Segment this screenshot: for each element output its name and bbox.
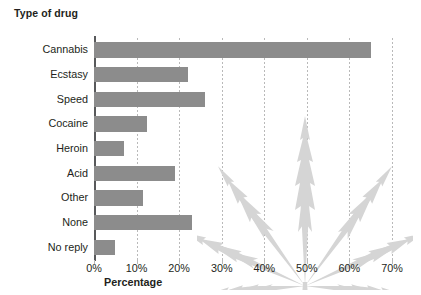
x-tick-label-20: 20% [168,262,190,274]
bar-band [94,112,392,137]
category-label-ecstasy: Ecstasy [0,68,88,80]
bar-band [94,38,392,63]
bar-band [94,87,392,112]
bar-band [94,211,392,236]
category-label-cocaine: Cocaine [0,117,88,129]
bar-ecstasy[interactable] [94,67,188,82]
bar-acid[interactable] [94,166,175,181]
category-label-other: Other [0,191,88,203]
y-axis-title: Type of drug [14,7,78,19]
x-tick-label-40: 40% [253,262,275,274]
bar-band [94,186,392,211]
category-axis-labels: CannabisEcstasySpeedCocaineHeroinAcidOth… [0,38,88,260]
category-label-no-reply: No reply [0,241,88,253]
x-tick-label-30: 30% [211,262,233,274]
bar-cocaine[interactable] [94,116,147,131]
x-tick-label-10: 10% [126,262,148,274]
plot-area [94,38,392,260]
gridline-70 [392,38,393,260]
bar-band [94,137,392,162]
bar-band [94,161,392,186]
category-label-heroin: Heroin [0,142,88,154]
bar-other[interactable] [94,190,143,205]
bar-heroin[interactable] [94,141,124,156]
bar-band [94,235,392,260]
x-tick-label-70: 70% [381,262,403,274]
category-label-acid: Acid [0,167,88,179]
category-label-cannabis: Cannabis [0,43,88,55]
bar-chart: Type of drug [0,0,421,295]
bar-speed[interactable] [94,92,205,107]
x-tick-label-0: 0% [86,262,102,274]
bar-cannabis[interactable] [94,42,371,57]
bars-layer [94,38,392,260]
bar-band [94,63,392,88]
bar-no-reply[interactable] [94,240,115,255]
x-axis-title: Percentage [94,276,392,288]
x-tick-label-60: 60% [339,262,361,274]
bar-none[interactable] [94,215,192,230]
category-label-speed: Speed [0,93,88,105]
x-tick-label-50: 50% [296,262,318,274]
category-label-none: None [0,216,88,228]
